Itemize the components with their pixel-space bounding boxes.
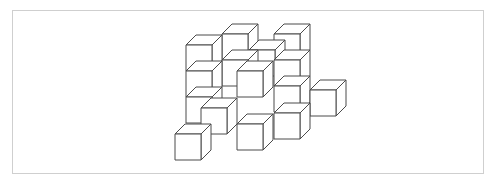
cube-front-face — [175, 134, 201, 160]
cube — [175, 124, 211, 160]
cube — [310, 80, 346, 116]
cube — [237, 61, 273, 97]
cube-front-face — [310, 90, 336, 116]
cube-front-face — [274, 113, 300, 139]
cube — [274, 103, 310, 139]
cube — [237, 114, 273, 150]
cube-stack-diagram — [0, 0, 496, 187]
cube-front-face — [237, 124, 263, 150]
cube-front-face — [237, 71, 263, 97]
